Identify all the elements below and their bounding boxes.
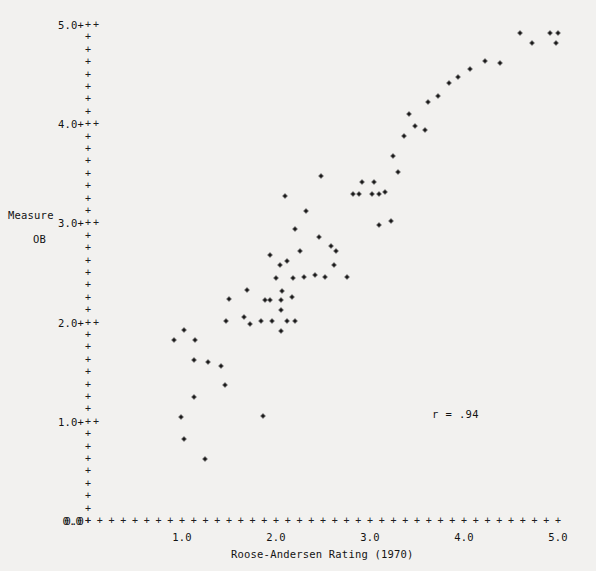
data-point: [352, 192, 355, 195]
data-point: [279, 329, 282, 332]
data-point: [384, 190, 387, 193]
data-point: [291, 276, 294, 279]
data-point: [468, 67, 471, 70]
data-point: [225, 319, 228, 322]
data-point: [555, 41, 558, 44]
data-point: [269, 298, 272, 301]
data-point: [436, 95, 439, 98]
data-point: [318, 236, 321, 239]
data-point: [220, 365, 223, 368]
data-point: [391, 154, 394, 157]
data-point: [224, 384, 227, 387]
data-point: [173, 339, 176, 342]
data-point: [228, 297, 231, 300]
data-point: [361, 180, 364, 183]
data-point: [278, 264, 281, 267]
data-point: [248, 322, 251, 325]
data-point: [303, 275, 306, 278]
data-point: [275, 276, 278, 279]
data-point: [293, 319, 296, 322]
data-point: [263, 298, 266, 301]
data-point: [314, 273, 317, 276]
data-point: [193, 359, 196, 362]
data-point: [530, 41, 533, 44]
data-point: [243, 315, 246, 318]
data-point: [357, 192, 360, 195]
data-point: [320, 174, 323, 177]
data-point: [402, 135, 405, 138]
data-point: [414, 125, 417, 128]
data-point: [323, 275, 326, 278]
data-point: [370, 192, 373, 195]
data-point: [346, 275, 349, 278]
data-point: [280, 289, 283, 292]
data-point: [423, 129, 426, 132]
data-point: [290, 295, 293, 298]
data-point: [457, 75, 460, 78]
data-point: [378, 224, 381, 227]
data-point: [378, 192, 381, 195]
data-point: [207, 361, 210, 364]
scatter-plot-figure: ++++++++++++++++++++++++++++++++++++++++…: [0, 0, 596, 571]
data-point: [498, 61, 501, 64]
data-point: [305, 210, 308, 213]
data-points-layer: [0, 0, 596, 571]
data-point: [397, 170, 400, 173]
data-point: [279, 298, 282, 301]
data-point: [427, 101, 430, 104]
data-point: [203, 458, 206, 461]
data-point: [299, 250, 302, 253]
data-point: [329, 245, 332, 248]
data-point: [259, 319, 262, 322]
data-point: [408, 113, 411, 116]
data-point: [549, 31, 552, 34]
data-point: [284, 194, 287, 197]
data-point: [261, 414, 264, 417]
data-point: [557, 31, 560, 34]
data-point: [372, 180, 375, 183]
data-point: [182, 437, 185, 440]
data-point: [335, 250, 338, 253]
data-point: [271, 319, 274, 322]
data-point: [389, 220, 392, 223]
data-point: [194, 339, 197, 342]
data-point: [269, 254, 272, 257]
data-point: [447, 81, 450, 84]
data-point: [279, 308, 282, 311]
data-point: [286, 260, 289, 263]
data-point: [182, 328, 185, 331]
data-point: [519, 31, 522, 34]
data-point: [483, 59, 486, 62]
data-point: [245, 288, 248, 291]
data-point: [180, 415, 183, 418]
data-point: [333, 264, 336, 267]
data-point: [293, 228, 296, 231]
data-point: [286, 319, 289, 322]
data-point: [193, 396, 196, 399]
